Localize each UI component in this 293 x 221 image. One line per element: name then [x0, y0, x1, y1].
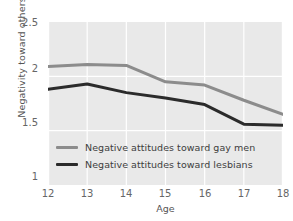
y-tick-label-1: 1 — [0, 172, 38, 182]
legend-item-lesbians: Negative attitudes toward lesbians — [56, 157, 281, 171]
x-tick-label-14: 14 — [113, 188, 139, 199]
y-tick-label-2: 2 — [0, 64, 38, 74]
x-tick-label-15: 15 — [152, 188, 178, 199]
line-chart: Negativity toward others 2.5 2 1.5 1 12 … — [0, 0, 293, 221]
x-tick-label-18: 18 — [270, 188, 293, 199]
y-tick-label-2.5: 2.5 — [0, 18, 38, 28]
x-tick-label-16: 16 — [192, 188, 218, 199]
legend-label-gay-men: Negative attitudes toward gay men — [85, 142, 255, 153]
x-tick-label-17: 17 — [231, 188, 257, 199]
legend-label-lesbians: Negative attitudes toward lesbians — [85, 159, 253, 170]
legend-swatch-lesbians — [56, 163, 78, 166]
x-tick-label-13: 13 — [74, 188, 100, 199]
y-tick-label-1.5: 1.5 — [0, 118, 38, 128]
legend-item-gay-men: Negative attitudes toward gay men — [56, 140, 281, 154]
x-tick-label-12: 12 — [35, 188, 61, 199]
chart-legend: Negative attitudes toward gay men Negati… — [56, 140, 281, 174]
x-axis-title: Age — [48, 203, 283, 214]
legend-swatch-gay-men — [56, 146, 78, 149]
